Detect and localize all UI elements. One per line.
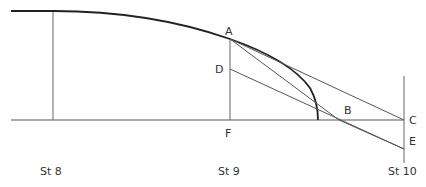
station-label-9: St 9 bbox=[218, 165, 240, 178]
road-curve bbox=[11, 11, 318, 120]
label-B: B bbox=[344, 104, 352, 117]
label-C: C bbox=[409, 114, 417, 127]
label-F: F bbox=[225, 127, 231, 140]
line-A-B bbox=[230, 39, 339, 120]
diagram-canvas: A D B C E F St 8 St 9 St 10 bbox=[0, 0, 426, 187]
station-label-8: St 8 bbox=[40, 165, 62, 178]
label-E: E bbox=[409, 135, 416, 148]
label-D: D bbox=[215, 63, 223, 76]
label-A: A bbox=[225, 25, 233, 38]
station-label-10: St 10 bbox=[388, 165, 417, 178]
line-D-E bbox=[230, 69, 404, 149]
